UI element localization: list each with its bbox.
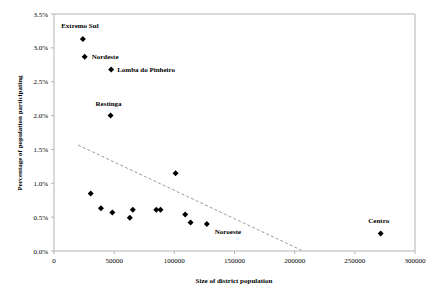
data-point-marker [188, 220, 194, 226]
data-point-label: Lomba do Pinheiro [117, 66, 175, 74]
data-point-marker [80, 36, 86, 42]
x-tick-label: 200000 [284, 257, 306, 265]
data-point-marker [82, 54, 88, 60]
scatter-plot: 050000100000150000200000250000300000 0.0… [0, 0, 433, 295]
data-point-marker [98, 205, 104, 211]
y-tick-label: 3.0% [33, 44, 48, 52]
data-point-label: Restinga [96, 100, 123, 108]
trend-line-dashed [78, 145, 303, 251]
y-tick-label: 3.5% [33, 11, 48, 19]
data-point-label: Centro [368, 217, 389, 225]
data-point-label: Noroeste [215, 228, 241, 236]
y-tick-label: 1.0% [33, 180, 48, 188]
x-tick-label: 0 [52, 257, 56, 265]
y-tick-label: 1.5% [33, 146, 48, 154]
plot-frame [54, 14, 415, 251]
y-axis-title: Percentage of population participating [16, 75, 24, 191]
data-point-marker [108, 113, 114, 119]
y-tick-label: 0.5% [33, 214, 48, 222]
x-axis-ticks: 050000100000150000200000250000300000 [52, 251, 426, 265]
chart-figure: 050000100000150000200000250000300000 0.0… [0, 0, 433, 295]
y-tick-label: 2.5% [33, 78, 48, 86]
y-tick-label: 2.0% [33, 112, 48, 120]
data-point-marker [130, 207, 136, 213]
x-tick-label: 100000 [164, 257, 186, 265]
x-tick-label: 150000 [224, 257, 246, 265]
x-tick-label: 300000 [405, 257, 427, 265]
x-axis-title: Size of district population [196, 277, 273, 285]
x-tick-label: 50000 [105, 257, 123, 265]
data-point-marker [173, 170, 179, 176]
data-point-label: Extremo Sul [61, 22, 98, 30]
data-point-marker [109, 209, 115, 215]
trend-line [78, 145, 303, 251]
x-tick-label: 250000 [344, 257, 366, 265]
y-tick-label: 0.0% [33, 248, 48, 256]
y-axis-ticks: 0.0%0.5%1.0%1.5%2.0%2.5%3.0%3.5% [33, 11, 54, 256]
data-point-marker [378, 230, 384, 236]
data-point-label: Nordeste [92, 53, 119, 61]
data-point-marker [182, 211, 188, 217]
data-point-marker [88, 190, 94, 196]
data-point-marker [157, 207, 163, 213]
data-point-marker [204, 221, 210, 227]
data-point-labels: Extremo SulNordesteLomba do PinheiroRest… [61, 22, 389, 236]
data-point-marker [108, 67, 114, 73]
data-point-marker [127, 215, 133, 221]
